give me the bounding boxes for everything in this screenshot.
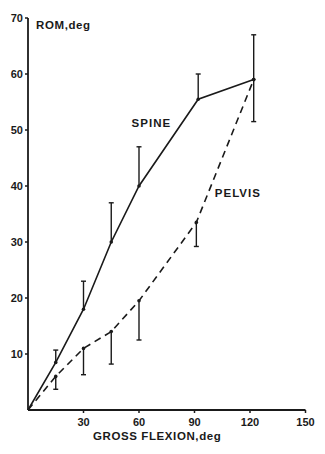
data-point (82, 307, 86, 311)
data-point (195, 221, 199, 225)
data-point (196, 97, 200, 101)
data-point (54, 375, 58, 379)
x-tick-label: 120 (241, 416, 259, 428)
x-axis-title: GROSS FLEXION,deg (93, 430, 221, 442)
y-tick-label: 30 (11, 236, 23, 248)
data-point (137, 299, 141, 303)
data-point (82, 347, 86, 351)
series-spine (28, 35, 256, 410)
rom-vs-gross-flexion-chart: ROM,deg GROSS FLEXION,deg 10203040506070… (0, 0, 325, 454)
y-tick-label: 10 (11, 348, 23, 360)
series-layer (28, 35, 256, 410)
y-tick-label: 60 (11, 68, 23, 80)
y-tick-label: 50 (11, 124, 23, 136)
data-point (109, 240, 113, 244)
y-tick-label: 20 (11, 292, 23, 304)
x-tick-label: 150 (296, 416, 314, 428)
y-tick-label: 40 (11, 180, 23, 192)
y-tick-label: 70 (11, 12, 23, 24)
data-point (54, 361, 58, 365)
data-point (109, 330, 113, 334)
x-tick-label: 90 (188, 416, 200, 428)
axes (25, 18, 306, 413)
series-label-spine: SPINE (132, 117, 172, 129)
x-tick-label: 30 (77, 416, 89, 428)
data-point (252, 78, 256, 82)
x-tick-label: 60 (133, 416, 145, 428)
series-label-pelvis: PELVIS (215, 187, 261, 199)
data-point (137, 184, 141, 188)
y-axis-title: ROM,deg (36, 19, 91, 31)
